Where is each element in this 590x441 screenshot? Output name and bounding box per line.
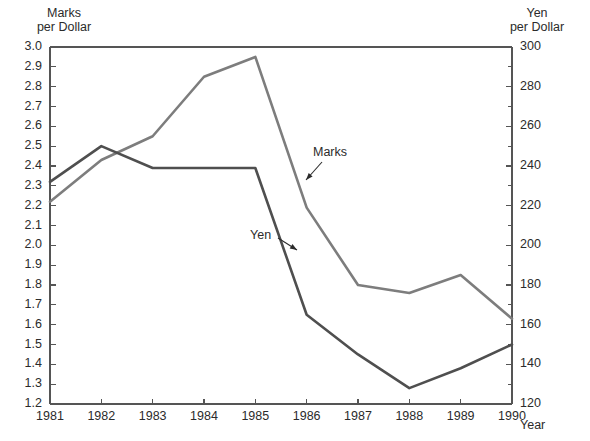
right-tick-label: 160 <box>520 318 560 331</box>
left-tick-label: 1.5 <box>8 338 42 351</box>
left-tick-label: 2.1 <box>8 219 42 232</box>
arrow-marks <box>306 162 322 180</box>
right-axis-title: Yenper Dollar <box>496 6 578 34</box>
right-axis-title-line1: Yen <box>526 6 547 20</box>
left-axis-title: Marksper Dollar <box>18 6 110 34</box>
axis-ticks <box>50 67 512 404</box>
x-tick-label: 1985 <box>231 410 279 423</box>
right-tick-label: 280 <box>520 80 560 93</box>
left-tick-label: 2.9 <box>8 60 42 73</box>
series-line-marks <box>50 57 512 319</box>
axis-frame <box>50 47 512 404</box>
series-label-yen: Yen <box>250 229 271 242</box>
x-tick-label: 1988 <box>385 410 433 423</box>
right-tick-label: 140 <box>520 357 560 370</box>
series-line-yen <box>50 146 512 388</box>
left-tick-label: 2.0 <box>8 238 42 251</box>
exchange-rate-chart: Marksper Dollar Yenper Dollar Year Marks… <box>0 0 590 441</box>
left-tick-label: 1.9 <box>8 258 42 271</box>
right-tick-label: 260 <box>520 119 560 132</box>
x-tick-label: 1986 <box>283 410 331 423</box>
left-tick-label: 1.3 <box>8 377 42 390</box>
right-axis-title-line2: per Dollar <box>510 20 564 34</box>
left-axis-title-line1: Marks <box>47 6 81 20</box>
left-tick-label: 2.2 <box>8 199 42 212</box>
x-tick-label: 1981 <box>26 410 74 423</box>
left-axis-title-line2: per Dollar <box>37 20 91 34</box>
x-tick-label: 1982 <box>77 410 125 423</box>
plot-area <box>0 0 590 441</box>
right-tick-label: 180 <box>520 278 560 291</box>
left-tick-label: 1.8 <box>8 278 42 291</box>
left-tick-label: 1.6 <box>8 318 42 331</box>
x-tick-label: 1989 <box>437 410 485 423</box>
right-tick-label: 120 <box>520 397 560 410</box>
left-tick-label: 2.6 <box>8 119 42 132</box>
x-tick-label: 1983 <box>129 410 177 423</box>
left-tick-label: 1.4 <box>8 357 42 370</box>
right-tick-label: 240 <box>520 159 560 172</box>
right-tick-label: 300 <box>520 40 560 53</box>
left-tick-label: 2.8 <box>8 80 42 93</box>
left-tick-label: 3.0 <box>8 40 42 53</box>
annotation-arrows <box>278 162 322 250</box>
x-tick-label: 1984 <box>180 410 228 423</box>
left-tick-label: 1.7 <box>8 298 42 311</box>
right-tick-label: 200 <box>520 238 560 251</box>
series-label-marks: Marks <box>313 146 347 159</box>
x-tick-label: 1987 <box>334 410 382 423</box>
right-tick-label: 220 <box>520 199 560 212</box>
data-series <box>50 57 512 388</box>
left-tick-label: 2.3 <box>8 179 42 192</box>
left-tick-label: 2.7 <box>8 100 42 113</box>
left-tick-label: 2.5 <box>8 139 42 152</box>
x-tick-label: 1990 <box>488 410 536 423</box>
left-tick-label: 2.4 <box>8 159 42 172</box>
